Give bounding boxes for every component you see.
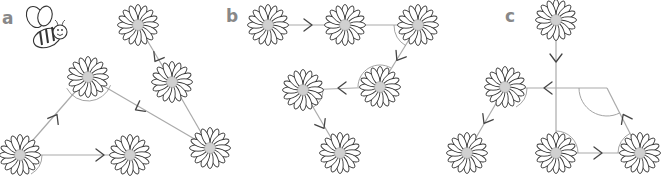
panel-a: [0, 4, 231, 176]
flower-icon: [398, 5, 439, 46]
angle-arcs: [516, 88, 630, 153]
flower-icon: [485, 67, 526, 108]
flower-icon: [248, 5, 289, 46]
panel-label-b: b: [226, 6, 238, 26]
bee-icon: [23, 4, 67, 52]
bee-foraging-diagram: a b c: [0, 0, 665, 180]
direction-arrow-icon: [133, 101, 146, 115]
flower-icon: [447, 133, 488, 174]
flower-icon: [536, 133, 577, 174]
diagram-canvas: [0, 0, 665, 180]
flowers: [447, 0, 661, 174]
flower-icon: [320, 133, 361, 174]
flower-icon: [118, 5, 159, 46]
panel-c: [447, 0, 661, 174]
flower-icon: [536, 0, 577, 41]
flower-icon: [283, 70, 324, 111]
flower-icon: [110, 135, 151, 176]
flower-icon: [190, 128, 231, 169]
panel-label-a: a: [2, 8, 13, 28]
panel-label-c: c: [505, 6, 515, 26]
flower-icon: [152, 62, 193, 103]
flower-icon: [620, 133, 661, 174]
flower-icon: [68, 57, 109, 98]
flower-icon: [0, 135, 41, 176]
flower-icon: [325, 5, 366, 46]
panel-b: [248, 5, 439, 174]
direction-arrow-icon: [48, 112, 62, 125]
flowers: [0, 5, 231, 176]
direction-arrow-icon: [315, 119, 329, 132]
flower-icon: [360, 67, 401, 108]
